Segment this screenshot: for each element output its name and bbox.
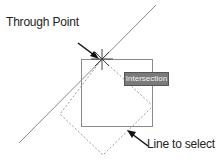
arrow-icon-through-point [78,43,99,59]
through-point-label: Through Point [6,15,79,29]
line-to-select-label: Line to select [147,137,215,151]
intersection-tooltip: Intersection [124,72,169,86]
arrow-icon-line-to-select [127,130,148,146]
